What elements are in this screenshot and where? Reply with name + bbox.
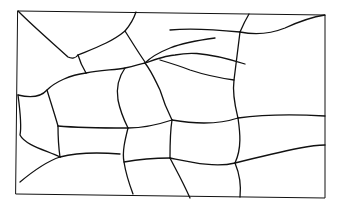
cell-boundary-line — [172, 118, 238, 123]
cell-boundary-line — [125, 31, 145, 62]
cell-boundary-line — [18, 73, 86, 97]
cell-boundary-line — [170, 120, 172, 158]
cell-boundary-line — [18, 11, 78, 58]
cell-boundary-line — [233, 32, 240, 118]
cell-boundary-line — [240, 14, 249, 32]
cell-boundary-line — [47, 90, 58, 126]
cell-boundaries — [18, 11, 325, 198]
cell-boundary-line — [170, 158, 235, 165]
drawing-canvas — [0, 0, 341, 207]
cell-boundary-line — [170, 29, 240, 32]
outer-frame — [16, 11, 325, 198]
cell-boundary-line — [58, 126, 60, 157]
cell-boundary-line — [18, 95, 60, 157]
cell-boundary-line — [60, 153, 120, 157]
cell-boundary-line — [170, 158, 190, 198]
cell-boundary-line — [58, 120, 172, 128]
cell-boundary-line — [117, 68, 128, 128]
cell-boundary-line — [20, 157, 60, 182]
cell-boundary-line — [124, 158, 170, 162]
cell-boundary-line — [78, 55, 86, 73]
cell-boundary-line — [160, 60, 234, 80]
cell-boundary-line — [145, 63, 172, 120]
cell-boundary-line — [235, 145, 325, 163]
cell-boundary-line — [240, 15, 325, 34]
cell-diagram — [0, 0, 341, 207]
cell-boundary-line — [235, 118, 240, 197]
cell-boundary-line — [86, 63, 145, 73]
cell-boundary-line — [145, 53, 245, 64]
cell-boundary-line — [238, 115, 325, 118]
